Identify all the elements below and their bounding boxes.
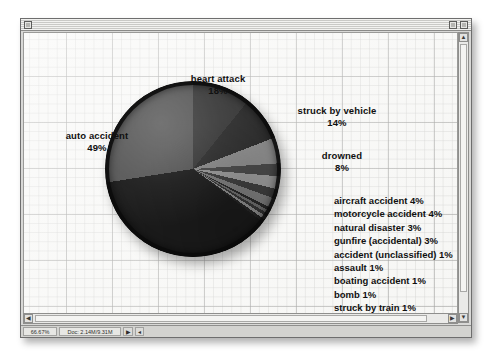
horizontal-scrollbar[interactable]: ◀ ▶ — [23, 313, 458, 324]
label-auto-accident-pct: 49% — [66, 142, 129, 154]
small-label-item: gunfire (accidental) 3% — [334, 234, 453, 247]
small-label-item: assault 1% — [334, 261, 453, 274]
screenshot-root: heart attack 18% struck by vehicle 14% d… — [0, 0, 494, 351]
scroll-right-arrow-icon[interactable]: ▶ — [448, 314, 457, 323]
label-heart-attack: heart attack 18% — [191, 73, 246, 97]
status-caret-icon[interactable]: ◂ — [135, 327, 144, 336]
label-auto-accident: auto accident 49% — [66, 130, 129, 154]
document-canvas[interactable]: heart attack 18% struck by vehicle 14% d… — [23, 32, 458, 323]
label-auto-accident-name: auto accident — [66, 130, 129, 141]
scroll-down-arrow-icon[interactable]: ▼ — [459, 313, 468, 322]
label-drowned-name: drowned — [322, 150, 362, 161]
small-label-list: aircraft accident 4%motorcycle accident … — [334, 194, 453, 315]
window-titlebar[interactable] — [21, 19, 471, 31]
pie-disc — [105, 81, 281, 257]
label-drowned-pct: 8% — [322, 162, 362, 174]
small-label-item: accident (unclassified) 1% — [334, 248, 453, 261]
small-label-item: motorcycle accident 4% — [334, 207, 453, 220]
vertical-scrollbar-thumb[interactable] — [460, 44, 467, 292]
application-window: heart attack 18% struck by vehicle 14% d… — [20, 18, 472, 338]
label-heart-attack-pct: 18% — [191, 85, 246, 97]
close-box-icon[interactable] — [24, 21, 32, 29]
scroll-left-arrow-icon[interactable]: ◀ — [24, 314, 33, 323]
horizontal-scrollbar-thumb[interactable] — [35, 315, 427, 322]
label-heart-attack-name: heart attack — [191, 73, 246, 84]
small-label-item: aircraft accident 4% — [334, 194, 453, 207]
pie-chart — [105, 81, 281, 257]
small-label-item: boating accident 1% — [334, 274, 453, 287]
label-drowned: drowned 8% — [322, 150, 362, 174]
pie-slices — [105, 81, 281, 257]
document-size-field[interactable]: Doc: 2.14M/9.31M — [59, 327, 121, 336]
small-label-item: bomb 1% — [334, 288, 453, 301]
status-popup-arrow-icon[interactable]: ▶ — [123, 327, 133, 336]
collapse-box-icon[interactable] — [460, 21, 468, 29]
small-label-item: natural disaster 3% — [334, 221, 453, 234]
vertical-scrollbar[interactable]: ▲ ▼ — [458, 32, 469, 323]
label-struck-by-vehicle: struck by vehicle 14% — [298, 105, 377, 129]
zoom-box-icon[interactable] — [449, 21, 457, 29]
label-struck-by-vehicle-pct: 14% — [298, 117, 377, 129]
status-bar: 66.67% Doc: 2.14M/9.31M ▶ ◂ — [21, 325, 471, 337]
zoom-level-field[interactable]: 66.67% — [23, 327, 57, 336]
label-struck-by-vehicle-name: struck by vehicle — [298, 105, 377, 116]
scroll-up-arrow-icon[interactable]: ▲ — [459, 33, 468, 42]
